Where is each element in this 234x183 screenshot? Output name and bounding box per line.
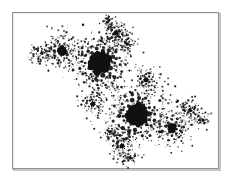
figure-page [0, 0, 234, 183]
fractal-plot-vector [0, 0, 234, 183]
